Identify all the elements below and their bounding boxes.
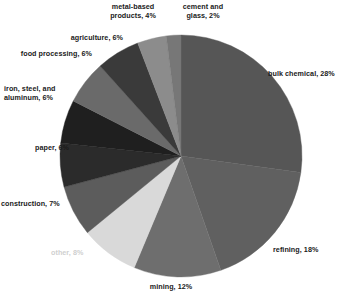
- pie-slice: [181, 35, 302, 173]
- slice-label-bulk-chemical: bulk chemical, 28%: [268, 69, 354, 78]
- slice-label-other: other, 8%: [51, 248, 111, 257]
- slice-label-mining: mining, 12%: [136, 282, 206, 291]
- slice-label-iron-steel-aluminum: iron, steel, and aluminum, 6%: [4, 84, 90, 102]
- slice-label-agriculture: agriculture, 6%: [30, 33, 123, 42]
- slice-label-food-processing: food processing, 6%: [2, 49, 92, 58]
- slice-label-metal-based-products: metal-based products, 4%: [100, 2, 166, 20]
- slice-label-cement-and-glass: cement and glass, 2%: [170, 2, 236, 20]
- pie-chart: metal-based products, 4% cement and glas…: [0, 0, 355, 294]
- slice-label-paper: paper, 6%: [2, 143, 69, 152]
- slice-label-construction: construction, 7%: [1, 199, 91, 208]
- slice-label-refining: refining, 18%: [273, 245, 353, 254]
